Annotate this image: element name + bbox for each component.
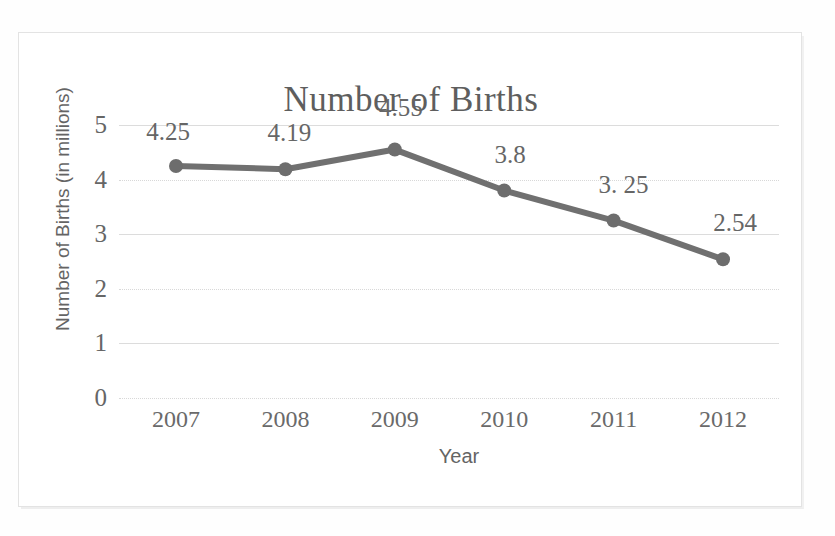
data-point-marker[interactable]: [716, 252, 730, 266]
x-axis-title: Year: [119, 445, 799, 468]
data-point-marker[interactable]: [169, 159, 183, 173]
data-point-label: 4.25: [146, 118, 190, 146]
plot-area: 543210 200720082009201020112012 4.254.19…: [119, 125, 779, 398]
line-series: [119, 125, 779, 398]
data-point-label: 2.54: [713, 209, 757, 237]
gridline: [119, 398, 779, 399]
scanned-page: Number of Births Number of Births (in mi…: [0, 0, 835, 536]
y-axis-tick-label: 1: [95, 329, 108, 357]
x-axis-tick-label: 2012: [699, 406, 747, 433]
data-point-marker[interactable]: [278, 162, 292, 176]
x-axis-tick-label: 2011: [590, 406, 637, 433]
y-axis-title: Number of Births (in millions): [52, 59, 74, 359]
y-axis-tick-label: 3: [95, 220, 108, 248]
x-axis-tick-label: 2010: [480, 406, 528, 433]
y-axis-tick-label: 2: [95, 275, 108, 303]
data-point-marker[interactable]: [388, 143, 402, 157]
x-axis-tick-label: 2008: [261, 406, 309, 433]
y-axis-tick-label: 5: [95, 111, 108, 139]
x-axis-tick-label: 2007: [152, 406, 200, 433]
y-axis-tick-label: 4: [95, 166, 108, 194]
data-point-label: 3. 25: [599, 171, 649, 199]
x-axis-tick-label: 2009: [371, 406, 419, 433]
data-point-marker[interactable]: [607, 214, 621, 228]
chart-frame: Number of Births Number of Births (in mi…: [18, 32, 802, 507]
data-point-label: 4.55: [379, 94, 423, 122]
data-point-label: 3.8: [495, 141, 526, 169]
data-point-marker[interactable]: [497, 184, 511, 198]
y-axis-tick-label: 0: [95, 384, 108, 412]
data-point-label: 4.19: [268, 119, 312, 147]
